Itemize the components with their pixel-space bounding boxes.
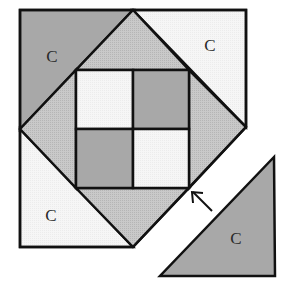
four-patch-square-bottom-left bbox=[76, 129, 133, 188]
four-patch-square-top-right bbox=[133, 70, 189, 129]
quilt-block-diagram bbox=[0, 0, 290, 289]
four-patch-square-top-left bbox=[76, 70, 133, 129]
four-patch-square-bottom-right bbox=[133, 129, 189, 188]
arrow-icon bbox=[192, 192, 212, 211]
